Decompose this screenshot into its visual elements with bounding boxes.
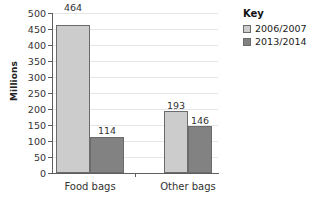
y-axis-label-100: 100 [28, 136, 46, 147]
y-tick-150 [48, 125, 52, 126]
bar-food-bags-2013-2014[interactable] [90, 137, 124, 174]
y-tick-0 [48, 173, 52, 174]
legend-item-2006-2007[interactable]: 2006/2007 [243, 23, 313, 34]
plot-area: 500 450 400 350 300 250 200 150 100 50 0… [52, 13, 218, 173]
y-axis-title: Millions [9, 46, 19, 116]
y-axis-label-300: 300 [28, 72, 46, 83]
y-axis-label-400: 400 [28, 40, 46, 51]
legend-item-2013-2014[interactable]: 2013/2014 [243, 36, 313, 47]
data-label-other-bags-2013-2014: 146 [191, 115, 209, 126]
legend-swatch-dark-icon [243, 38, 251, 46]
data-label-food-bags-2006-2007: 464 [64, 2, 82, 13]
bar-other-bags-2013-2014[interactable] [188, 126, 212, 173]
bar-chart: Millions 500 450 400 350 300 250 200 150 [0, 0, 313, 200]
y-axis-label-150: 150 [28, 120, 46, 131]
y-tick-400 [48, 45, 52, 46]
y-tick-100 [48, 141, 52, 142]
legend: Key 2006/2007 2013/2014 [243, 8, 313, 49]
y-axis-label-500: 500 [28, 8, 46, 19]
gridline-500 [53, 13, 218, 14]
legend-label-2006-2007: 2006/2007 [255, 23, 307, 34]
x-axis-label-other-bags: Other bags [160, 181, 216, 192]
y-tick-300 [48, 77, 52, 78]
x-axis-label-food-bags: Food bags [64, 181, 115, 192]
x-axis-line [48, 173, 219, 174]
legend-title: Key [243, 8, 313, 19]
y-tick-350 [48, 61, 52, 62]
y-axis-label-200: 200 [28, 104, 46, 115]
y-tick-250 [48, 93, 52, 94]
y-axis-label-50: 50 [34, 152, 46, 163]
y-tick-200 [48, 109, 52, 110]
bar-food-bags-2006-2007[interactable] [56, 25, 90, 174]
x-tick-separator [135, 173, 136, 177]
legend-swatch-light-icon [243, 25, 251, 33]
data-label-food-bags-2013-2014: 114 [98, 125, 116, 136]
y-tick-50 [48, 157, 52, 158]
data-label-other-bags-2006-2007: 193 [167, 100, 185, 111]
y-axis-label-0: 0 [40, 168, 46, 179]
y-axis-label-350: 350 [28, 56, 46, 67]
y-axis-label-250: 250 [28, 88, 46, 99]
y-axis-label-450: 450 [28, 24, 46, 35]
legend-label-2013-2014: 2013/2014 [255, 36, 307, 47]
y-tick-500 [48, 13, 52, 14]
y-tick-450 [48, 29, 52, 30]
bar-other-bags-2006-2007[interactable] [164, 111, 188, 173]
